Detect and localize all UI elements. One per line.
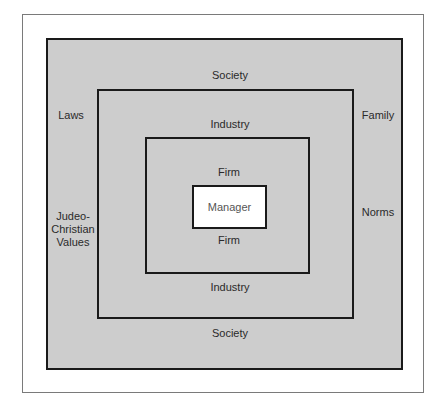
judeo-christian-values-label: Judeo- Christian Values	[48, 210, 98, 249]
firm-top-label: Firm	[199, 166, 259, 179]
family-label: Family	[355, 109, 401, 122]
industry-bottom-label: Industry	[190, 281, 270, 294]
industry-top-label: Industry	[190, 118, 270, 131]
norms-label: Norms	[355, 206, 401, 219]
firm-bottom-label: Firm	[199, 234, 259, 247]
society-bottom-label: Society	[190, 327, 270, 340]
laws-label: Laws	[48, 109, 94, 122]
society-top-label: Society	[190, 69, 270, 82]
manager-label: Manager	[192, 185, 267, 229]
